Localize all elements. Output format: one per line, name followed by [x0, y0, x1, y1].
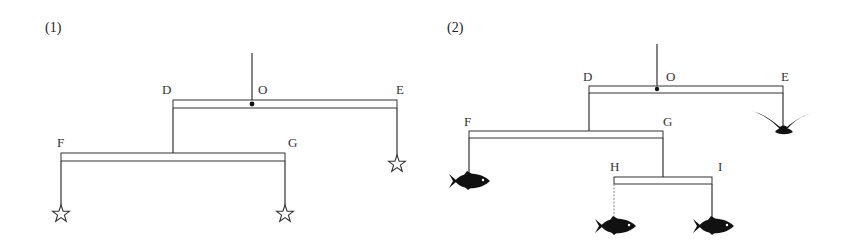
fish-icon	[595, 216, 636, 235]
point-label-i: I	[718, 159, 722, 174]
point-label-e: E	[396, 82, 404, 97]
point-label-h: H	[610, 159, 619, 174]
fish-icon	[693, 216, 734, 235]
panel-2: (2) D O E F G H I	[447, 20, 810, 235]
point-label-o: O	[666, 69, 675, 84]
point-label-e: E	[781, 69, 789, 84]
point-label-g: G	[288, 135, 297, 150]
mobile-diagrams: (1) D O E F G (2) D O E	[0, 0, 856, 247]
pivot-o-dot	[655, 87, 659, 91]
panel-label: (1)	[45, 20, 62, 36]
point-label-f: F	[57, 135, 64, 150]
rod-de	[173, 100, 397, 108]
fish-icon	[449, 171, 490, 190]
star-icon	[388, 155, 405, 171]
bird-icon	[752, 111, 810, 134]
rod-de	[589, 86, 783, 93]
point-label-o: O	[258, 82, 267, 97]
point-label-d: D	[162, 82, 171, 97]
point-label-g: G	[663, 114, 672, 129]
rod-hi	[614, 177, 712, 184]
star-icon	[52, 205, 69, 221]
rod-fg	[61, 153, 285, 161]
point-label-f: F	[464, 114, 471, 129]
star-icon	[276, 205, 293, 221]
point-label-d: D	[583, 69, 592, 84]
pivot-o-dot	[250, 102, 255, 107]
panel-1: (1) D O E F G	[45, 20, 406, 221]
panel-label: (2)	[447, 20, 464, 36]
rod-fg	[469, 131, 663, 138]
